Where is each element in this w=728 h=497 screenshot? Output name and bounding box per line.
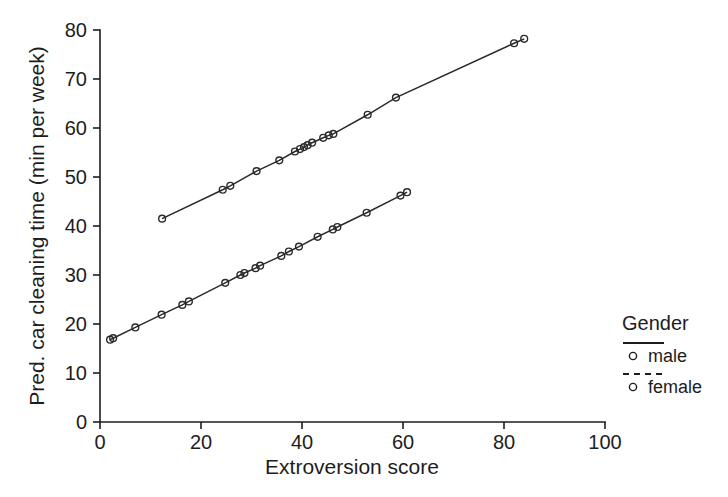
y-axis-tick-labels: 01020304050607080 xyxy=(65,19,87,433)
x-tick-label: 20 xyxy=(190,431,212,453)
legend-label-female: female xyxy=(648,377,702,397)
x-tick-label: 80 xyxy=(493,431,515,453)
x-tick-label: 60 xyxy=(392,431,414,453)
x-axis-title: Extroversion score xyxy=(265,455,439,478)
y-axis-title: Pred. car cleaning time (min per week) xyxy=(25,46,48,405)
legend-title: Gender xyxy=(622,312,689,334)
x-tick-label: 40 xyxy=(291,431,313,453)
y-tick-label: 30 xyxy=(65,264,87,286)
y-tick-label: 70 xyxy=(65,68,87,90)
chart-figure: 01020304050607080 020406080100 Extrovers… xyxy=(0,0,728,497)
legend-label-male: male xyxy=(648,346,687,366)
y-tick-label: 20 xyxy=(65,313,87,335)
y-tick-label: 80 xyxy=(65,19,87,41)
y-tick-label: 0 xyxy=(76,411,87,433)
x-tick-label: 0 xyxy=(94,431,105,453)
chart-canvas: 01020304050607080 020406080100 Extrovers… xyxy=(0,0,728,497)
y-tick-label: 10 xyxy=(65,362,87,384)
y-tick-label: 60 xyxy=(65,117,87,139)
x-tick-label: 100 xyxy=(588,431,621,453)
y-tick-label: 50 xyxy=(65,166,87,188)
y-tick-label: 40 xyxy=(65,215,87,237)
